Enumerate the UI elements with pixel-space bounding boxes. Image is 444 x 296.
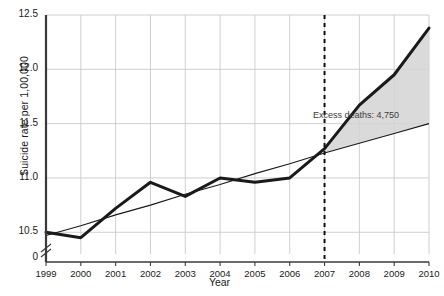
y-tick-label: 10.5: [4, 225, 38, 236]
y-tick-label: 11.0: [4, 171, 38, 182]
y-tick-label: 12.0: [4, 62, 38, 73]
y-tick-label-zero: 0: [4, 251, 38, 262]
y-tick-label: 12.5: [4, 8, 38, 19]
x-tick-label: 2010: [409, 268, 444, 279]
y-tick-label: 11.5: [4, 117, 38, 128]
excess-deaths-annotation: Excess deaths: 4,750: [313, 110, 399, 120]
